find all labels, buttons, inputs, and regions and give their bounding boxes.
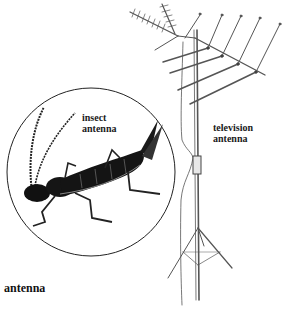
tv-label-line2: antenna [213,133,253,144]
insect-label-line2: antenna [82,123,116,134]
television-antenna-label: television antenna [213,122,253,144]
insect-antenna-label: insect antenna [82,112,116,134]
insect-label-line1: insect [82,112,116,123]
tv-label-line1: television [213,122,253,133]
antenna-illustration [0,0,283,309]
headword-caption: antenna [4,281,45,296]
